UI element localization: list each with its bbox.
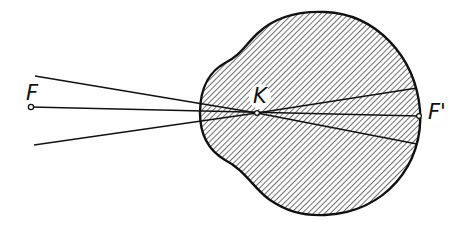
label-fprime: F' [428, 102, 446, 123]
focus-point-f [28, 104, 33, 109]
nodal-point-k [255, 111, 260, 116]
label-k: K [249, 84, 271, 109]
label-f: F [26, 83, 38, 104]
focus-point-fprime [417, 114, 422, 119]
eye-diagram [0, 0, 467, 234]
